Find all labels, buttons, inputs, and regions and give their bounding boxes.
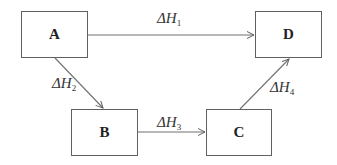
node-d-label: D: [283, 26, 294, 43]
node-a: A: [21, 11, 88, 58]
node-a-label: A: [49, 26, 60, 43]
node-d: D: [255, 11, 322, 58]
node-c-label: C: [234, 124, 245, 141]
node-b-label: B: [99, 124, 109, 141]
node-b: B: [71, 109, 138, 156]
edge-label-dh3: ΔH3: [157, 114, 181, 132]
edge-label-dh1: ΔH1: [157, 10, 181, 28]
node-c: C: [206, 109, 272, 156]
edge-label-dh4: ΔH4: [270, 79, 294, 97]
edge-label-dh2: ΔH2: [52, 75, 76, 93]
